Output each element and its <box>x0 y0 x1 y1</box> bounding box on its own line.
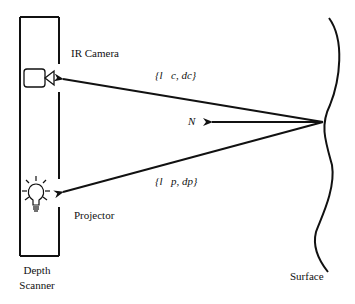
diagram-canvas <box>0 0 355 304</box>
depth-scanner-label-line2: Scanner <box>10 278 64 293</box>
normal-label: N⃗ <box>188 115 204 127</box>
depth-scanner-label: Depth Scanner <box>10 263 64 293</box>
camera-ray-label: {l⃗c, dc} <box>155 69 196 81</box>
surface-label: Surface <box>290 270 324 282</box>
depth-scanner-box <box>20 17 59 256</box>
surface-curve <box>315 18 339 272</box>
light-bulb-icon <box>22 176 50 211</box>
video-camera-icon <box>24 69 54 87</box>
projector-label: Projector <box>74 209 114 221</box>
ir-camera-label: IR Camera <box>71 47 119 59</box>
projector-ray-label: {l⃗p, dp} <box>155 175 197 187</box>
depth-scanner-label-line1: Depth <box>10 263 64 278</box>
